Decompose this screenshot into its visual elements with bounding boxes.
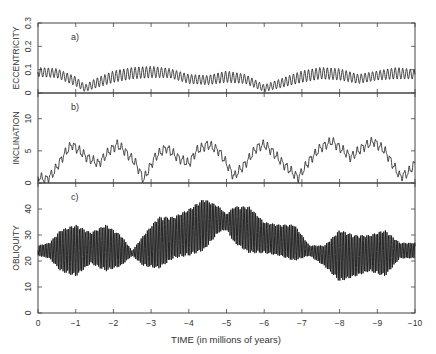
x-tick-label: −3 [146,318,156,328]
x-axis-label: TIME (in millions of years) [171,334,281,345]
data-line [38,66,415,91]
x-tick-label: −1 [71,318,81,328]
panel-label: b) [71,102,79,112]
panel-label: a) [71,32,79,42]
x-tick-label: 0 [36,318,41,328]
y-tick-label: 0.3 [23,17,33,29]
y-tick-label: 0 [23,90,33,95]
x-tick-label: −4 [184,318,194,328]
y-tick-label: 0.2 [23,40,33,52]
x-tick-label: −8 [335,318,345,328]
chart-canvas: 00.10.20.3ECCENTRICITYa)0510INCLINATIONb… [0,0,436,354]
data-line [38,137,415,183]
panel-eccentricity: 00.10.20.3ECCENTRICITYa) [11,17,415,96]
y-tick-label: 40 [23,204,33,214]
plot-frame [38,93,415,183]
panel-obliquity: 010203040OBLIQUITYc) [11,183,415,315]
panel-label: c) [71,192,79,202]
figure: 00.10.20.3ECCENTRICITYa)0510INCLINATIONb… [0,0,436,354]
x-tick-label: −5 [222,318,232,328]
panels: 00.10.20.3ECCENTRICITYa)0510INCLINATIONb… [11,17,422,328]
y-tick-label: 10 [23,114,33,124]
data-line [38,200,415,280]
y-tick-label: 5 [23,148,33,153]
x-tick-label: −6 [259,318,269,328]
x-tick-label: −10 [408,318,423,328]
y-tick-label: 0 [23,310,33,315]
y-tick-label: 20 [23,256,33,266]
y-tick-label: 10 [23,282,33,292]
y-axis-label: OBLIQUITY [11,225,21,271]
x-tick-label: −9 [372,318,382,328]
x-tick-label: −2 [109,318,119,328]
y-tick-label: 0 [23,180,33,185]
y-axis-label: INCLINATION [11,111,21,164]
y-tick-label: 30 [23,230,33,240]
y-tick-label: 0.1 [23,63,33,75]
x-tick-label: −7 [297,318,307,328]
y-axis-label: ECCENTRICITY [11,26,21,89]
panel-inclination: 0510INCLINATIONb) [11,93,415,185]
